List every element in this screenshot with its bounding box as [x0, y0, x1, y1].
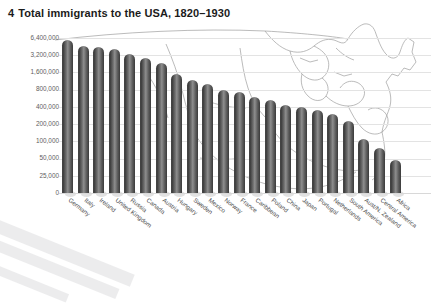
x-axis-tick-label: Ireland [98, 197, 117, 214]
x-axis-tick-label: Japan [301, 197, 318, 212]
